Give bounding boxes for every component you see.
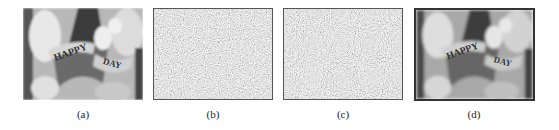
encrypted-noise-image — [284, 9, 402, 99]
encrypted-image-panel-c — [283, 8, 403, 100]
encrypted-noise-image — [154, 9, 272, 99]
caption-c: (c) — [283, 108, 403, 120]
caption-a: (a) — [23, 108, 143, 120]
caption-b: (b) — [153, 108, 273, 120]
encrypted-image-panel-b — [153, 8, 273, 100]
caption-d: (d) — [414, 108, 534, 120]
decrypted-image-panel: HAPPY DAY — [414, 8, 535, 101]
original-image-panel: HAPPY DAY — [23, 8, 143, 100]
original-image: HAPPY DAY — [23, 8, 143, 100]
decrypted-image: HAPPY DAY — [416, 10, 533, 99]
